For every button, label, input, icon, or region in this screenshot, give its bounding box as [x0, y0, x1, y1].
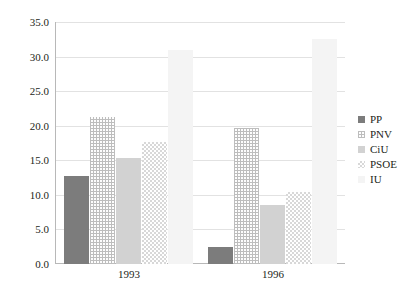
legend-swatch-icon	[358, 116, 365, 123]
legend-item-ciu[interactable]: CiU	[358, 142, 410, 157]
legend-item-label: PSOE	[370, 159, 397, 170]
bar-group	[64, 22, 194, 264]
legend-item-psoe[interactable]: PSOE	[358, 157, 410, 172]
legend-item-label: IU	[370, 174, 382, 185]
bar-pnv-1993[interactable]	[90, 117, 115, 264]
y-axis-tick-label: 25.0	[5, 86, 49, 97]
y-axis-tick-label: 10.0	[5, 189, 49, 200]
legend-item-iu[interactable]: IU	[358, 172, 410, 187]
legend-swatch-icon	[358, 176, 365, 183]
bar-psoe-1996[interactable]	[286, 192, 311, 264]
chart-legend: PPPNVCiUPSOEIU	[358, 112, 410, 187]
legend-swatch-icon	[358, 131, 365, 138]
bar-pp-1993[interactable]	[64, 176, 89, 265]
bar-psoe-1993[interactable]	[142, 142, 167, 264]
legend-item-label: CiU	[370, 144, 388, 155]
bars-layer	[56, 22, 345, 264]
legend-swatch-icon	[358, 146, 365, 153]
x-axis-tick-label: 1993	[89, 269, 169, 280]
bar-pp-1996[interactable]	[208, 247, 233, 264]
legend-item-label: PP	[370, 114, 382, 125]
bar-pnv-1996[interactable]	[234, 128, 259, 264]
x-axis-tick-label: 1996	[233, 269, 313, 280]
y-axis-tick-label: 35.0	[5, 17, 49, 28]
bar-chart: 0.05.010.015.020.025.030.035.0 19931996 …	[0, 0, 411, 297]
y-axis-tick-label: 30.0	[5, 51, 49, 62]
bar-iu-1993[interactable]	[168, 50, 193, 264]
legend-swatch-icon	[358, 161, 365, 168]
y-axis-tick-label: 0.0	[5, 259, 49, 270]
bar-ciu-1996[interactable]	[260, 205, 285, 264]
legend-item-pnv[interactable]: PNV	[358, 127, 410, 142]
y-axis-tick-label: 15.0	[5, 155, 49, 166]
legend-item-label: PNV	[370, 129, 392, 140]
y-axis-tick-label: 5.0	[5, 224, 49, 235]
bar-iu-1996[interactable]	[312, 39, 337, 264]
legend-item-pp[interactable]: PP	[358, 112, 410, 127]
bar-group	[208, 22, 338, 264]
y-axis-tick-label: 20.0	[5, 120, 49, 131]
bar-ciu-1993[interactable]	[116, 158, 141, 264]
